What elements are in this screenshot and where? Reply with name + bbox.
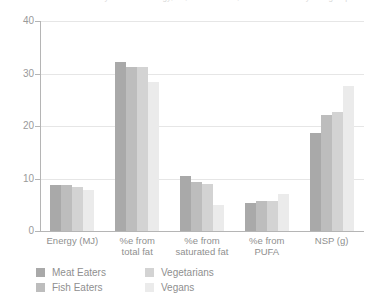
x-axis-tick-label: NSP (g) [293,235,370,246]
legend-item[interactable]: Vegetarians [145,266,214,279]
y-axis-tick-label: 0 [8,226,34,236]
legend-swatch [36,268,45,277]
legend-label: Meat Eaters [52,267,106,278]
y-axis-tick-label: 40 [8,16,34,26]
bar-group [180,21,224,231]
bar-group [50,21,94,231]
bar[interactable] [343,86,354,231]
legend-swatch [145,268,154,277]
bar[interactable] [115,62,126,231]
plot-area [40,21,364,231]
bar[interactable] [213,205,224,231]
chart-title-cropped: Table 3. Mean daily intake of energy, fa… [0,0,379,9]
bar[interactable] [245,203,256,231]
x-axis-tick-label-line: PUFA [228,246,305,257]
bar-group [115,21,159,231]
bar-group [310,21,354,231]
legend-item[interactable]: Meat Eaters [36,266,106,279]
bar[interactable] [137,67,148,231]
bar-group [245,21,289,231]
bar[interactable] [321,115,332,231]
bar[interactable] [278,194,289,231]
legend-label: Fish Eaters [52,282,103,293]
bar[interactable] [72,187,83,231]
bar[interactable] [180,176,191,231]
legend-item[interactable]: Fish Eaters [36,281,103,294]
legend-item[interactable]: Vegans [145,281,194,294]
x-axis-line [40,231,364,232]
bar[interactable] [50,185,61,231]
bar[interactable] [256,201,267,231]
legend-swatch [145,283,154,292]
bar[interactable] [267,201,278,231]
bar[interactable] [83,190,94,231]
x-axis-tick-label-line: NSP (g) [293,235,370,246]
bar[interactable] [148,82,159,231]
y-axis-labels: 010203040 [4,0,34,300]
bar-chart: Table 3. Mean daily intake of energy, fa… [0,0,379,300]
legend-label: Vegans [161,282,194,293]
y-axis-tick-label: 30 [8,69,34,79]
y-axis-tick-label: 10 [8,174,34,184]
y-tick-20 [35,126,40,127]
legend-label: Vegetarians [161,267,214,278]
y-axis-tick-label: 20 [8,121,34,131]
legend-swatch [36,283,45,292]
y-tick-40 [35,21,40,22]
y-tick-10 [35,179,40,180]
y-tick-0 [35,231,40,232]
bar[interactable] [61,185,72,231]
y-tick-30 [35,74,40,75]
bar[interactable] [332,112,343,231]
chart-title-text: Table 3. Mean daily intake of energy, fa… [36,0,350,2]
y-axis-line [40,21,41,232]
x-axis-labels: Energy (MJ)%e fromtotal fat%e fromsatura… [40,235,364,263]
bar[interactable] [191,182,202,231]
bar[interactable] [202,184,213,231]
bar[interactable] [310,133,321,231]
bar[interactable] [126,67,137,231]
chart-legend: Meat EatersFish EatersVegetariansVegans [36,266,296,296]
